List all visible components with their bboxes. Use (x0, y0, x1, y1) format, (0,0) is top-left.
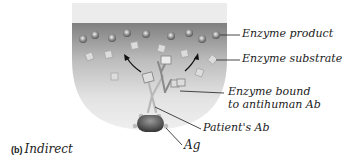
enzyme-product-bead (91, 31, 99, 39)
enzyme-substrate-square (104, 50, 112, 58)
enzyme-bound (177, 79, 185, 86)
label-enzyme-substrate: Enzyme substrate (242, 53, 342, 65)
leader-line-ag (166, 128, 182, 145)
enzyme-bound (142, 72, 154, 83)
antigen-bead (133, 124, 138, 129)
panel-letter: (b) (11, 145, 23, 155)
panel-caption: (b)Indirect (11, 142, 73, 156)
enzyme-product-bead (198, 35, 206, 43)
enzyme-product-bead (123, 29, 131, 37)
label-enzyme-bound-line1: Enzyme bound (228, 86, 310, 98)
well-rim (72, 3, 227, 23)
label-antigen: Ag (184, 139, 200, 151)
enzyme-substrate-square (130, 41, 138, 49)
enzyme-substrate-square (180, 49, 188, 57)
enzyme-product-bead (79, 35, 87, 43)
label-patients-ab: Patient's Ab (203, 122, 270, 134)
antigen-bead (164, 124, 169, 129)
enzyme-product-bead (142, 30, 150, 38)
enzyme-product-bead (167, 32, 175, 40)
enzyme-product-bead (185, 29, 193, 37)
antigen (137, 115, 164, 132)
panel-label: Indirect (25, 142, 73, 156)
enzyme-substrate-square (157, 44, 166, 53)
enzyme-product-bead (108, 34, 116, 42)
enzyme-product-bead (212, 31, 220, 39)
label-enzyme-bound-line2: to antihuman Ab (228, 99, 321, 111)
enzyme-substrate-square (111, 73, 118, 80)
enzyme-bound (161, 56, 171, 64)
label-enzyme-product: Enzyme product (242, 28, 333, 40)
